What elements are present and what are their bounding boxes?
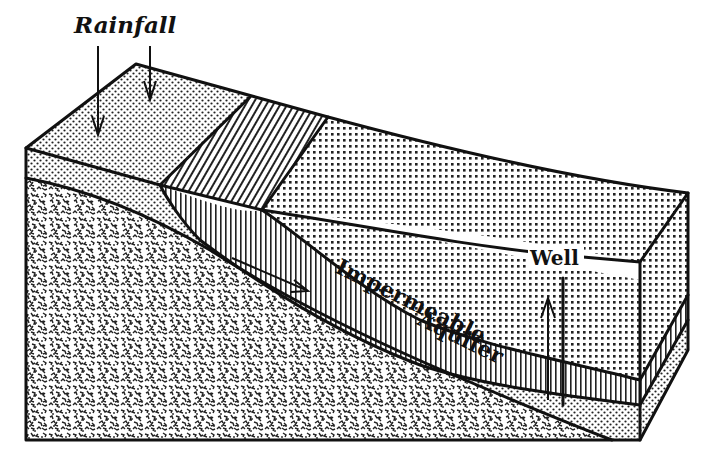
rainfall-label: Rainfall [73, 11, 177, 38]
well-label: Well [529, 246, 579, 270]
artesian-aquifer-diagram: Rainfall Well Impermeable Aquifer [0, 0, 709, 461]
